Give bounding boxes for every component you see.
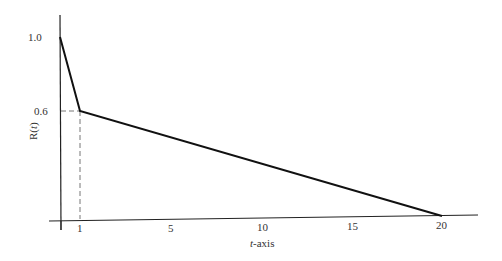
x-axis-label: t-axis <box>250 237 274 249</box>
y-axis <box>60 15 61 230</box>
y-tick-1.0: 1.0 <box>28 31 42 43</box>
chart: 1.0 0.6 R(t) 1 5 10 15 20 t-axis <box>0 0 502 261</box>
x-tick-5: 5 <box>168 222 174 234</box>
y-axis-label: R(t) <box>27 122 40 140</box>
reliability-line <box>60 37 442 216</box>
x-tick-1: 1 <box>77 222 83 234</box>
x-tick-10: 10 <box>257 221 269 233</box>
x-tick-15: 15 <box>347 220 359 232</box>
y-tick-0.6: 0.6 <box>34 105 48 117</box>
x-tick-20: 20 <box>436 219 448 231</box>
